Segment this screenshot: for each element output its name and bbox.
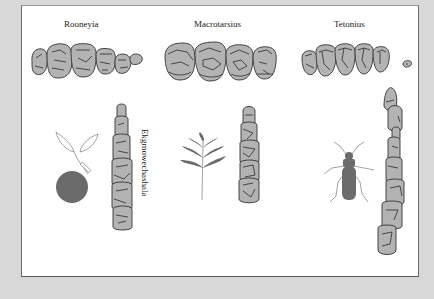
leaf-icon: [178, 134, 228, 202]
tetonius-tooth-row: [300, 40, 415, 80]
macrotarsius-tooth-row: [163, 40, 283, 84]
folivore-tooth-row: [235, 105, 265, 205]
fruit-icon: [52, 130, 102, 210]
label-macrotarsius: Macrotarsius: [194, 19, 241, 29]
ekgmowechashala-tooth-row: [108, 103, 138, 233]
rooneyia-tooth-row: [30, 40, 145, 82]
label-tetonius: Tetonius: [334, 19, 365, 29]
label-ekgmowechashala: Ekgmowechashala: [140, 129, 150, 196]
label-rooneyia: Rooneyia: [64, 19, 99, 29]
insect-icon: [322, 140, 376, 212]
insectivore-tooth-row: [376, 86, 416, 262]
